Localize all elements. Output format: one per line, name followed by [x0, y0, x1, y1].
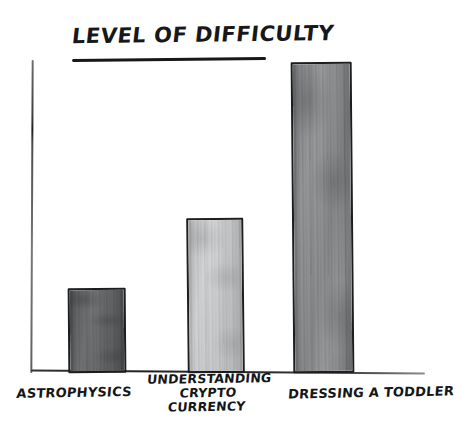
bar-understanding-crypto-currency	[186, 218, 245, 374]
bar-dressing-a-toddler	[291, 62, 355, 374]
title-underline	[72, 57, 266, 62]
x-label-dressing-a-toddler: DRESSING A TODDLER	[282, 384, 460, 402]
bar-chart: LEVEL OF DIFFICULTY ASTROPHYSICS UNDERST…	[0, 0, 475, 432]
x-label-understanding-crypto-currency: UNDERSTANDING CRYPTO CURRENCY	[141, 371, 275, 415]
bar-edge-shading	[70, 290, 125, 371]
chart-title: LEVEL OF DIFFICULTY	[71, 24, 284, 48]
bar-astrophysics	[68, 288, 127, 374]
bar-edge-shading	[293, 64, 353, 371]
y-axis-line	[30, 60, 33, 373]
x-label-astrophysics: ASTROPHYSICS	[7, 385, 140, 402]
bar-edge-shading	[188, 220, 243, 372]
